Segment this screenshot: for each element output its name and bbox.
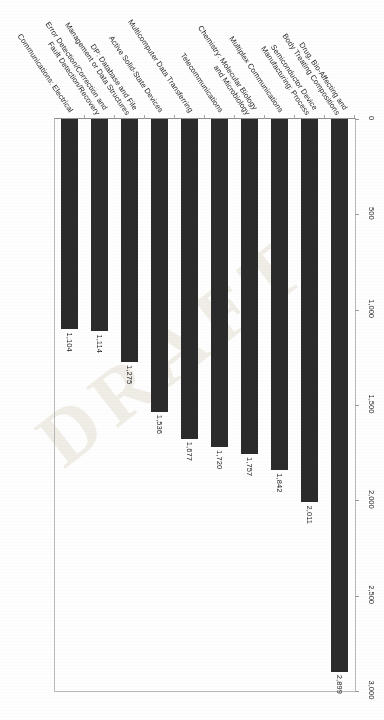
- category-axis-tick: [204, 115, 205, 119]
- bar: [62, 119, 79, 329]
- bar: [302, 119, 319, 502]
- category-axis-tick: [174, 115, 175, 119]
- value-axis-tick: [355, 596, 359, 597]
- bar: [212, 119, 229, 447]
- bar: [242, 119, 259, 454]
- bar: [152, 119, 169, 412]
- bar-value-label: 1,757: [246, 457, 255, 476]
- value-axis-tick-label: 1,000: [367, 299, 376, 318]
- bar-value-label: 1,536: [156, 415, 165, 434]
- value-axis-tick-label: 500: [367, 207, 376, 220]
- bar-value-label: 1,677: [186, 442, 195, 461]
- plot-area: 2,8992,0111,8421,7571,7201,6771,5361,275…: [54, 118, 356, 692]
- value-axis-tick: [355, 500, 359, 501]
- value-axis-tick: [355, 214, 359, 215]
- category-axis-tick: [114, 115, 115, 119]
- bar-value-label: 1,114: [96, 334, 105, 353]
- bar: [182, 119, 199, 439]
- bar-value-label: 1,720: [216, 450, 225, 469]
- category-axis-tick: [264, 115, 265, 119]
- value-axis-tick-label: 2,500: [367, 585, 376, 604]
- value-axis-tick-label: 3,000: [367, 681, 376, 700]
- value-axis-tick: [355, 405, 359, 406]
- value-axis-tick-label: 2,000: [367, 490, 376, 509]
- scanned-page: DRAFT 05001,0001,5002,0002,5003,000 Drug…: [0, 0, 384, 720]
- category-axis-tick: [144, 115, 145, 119]
- category-axis-tick: [234, 115, 235, 119]
- bar: [272, 119, 289, 470]
- rotated-chart-container: 05001,0001,5002,0002,5003,000 Drug, Bio-…: [0, 0, 384, 720]
- bar-value-label: 1,104: [66, 332, 75, 351]
- bar-chart: 05001,0001,5002,0002,5003,000 Drug, Bio-…: [0, 0, 384, 720]
- bar-value-label: 1,842: [276, 473, 285, 492]
- bar-value-label: 2,899: [336, 675, 345, 694]
- category-axis-tick: [324, 115, 325, 119]
- value-axis-tick: [355, 119, 359, 120]
- value-axis-tick: [355, 310, 359, 311]
- category-axis-tick: [84, 115, 85, 119]
- bar-value-label: 2,011: [306, 505, 315, 524]
- value-axis-tick-label: 0: [367, 116, 376, 120]
- category-axis-tick: [294, 115, 295, 119]
- value-axis-tick: [355, 691, 359, 692]
- value-axis-tick-label: 1,500: [367, 395, 376, 414]
- bar-value-label: 1,275: [126, 365, 135, 384]
- category-axis-tick: [354, 115, 355, 119]
- bar: [332, 119, 349, 672]
- bar: [122, 119, 139, 362]
- bar: [92, 119, 109, 331]
